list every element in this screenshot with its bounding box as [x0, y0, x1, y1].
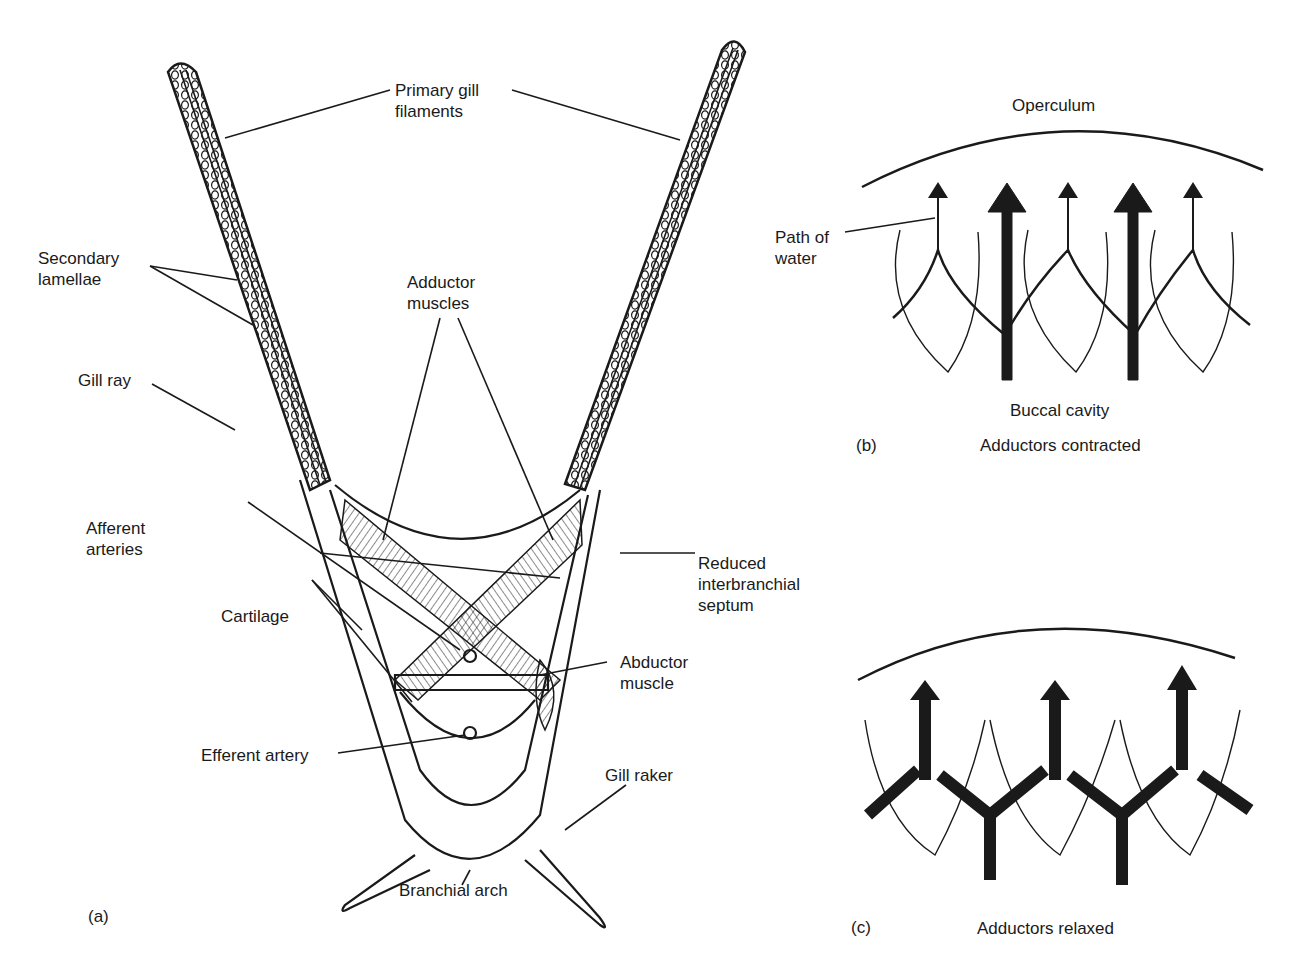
- label-secondary-lamellae: Secondary lamellae: [38, 248, 119, 290]
- panel-b-letter: (b): [856, 435, 877, 456]
- label-buccal-cavity: Buccal cavity: [1010, 400, 1109, 421]
- label-efferent-artery: Efferent artery: [201, 745, 308, 766]
- label-gill-ray: Gill ray: [78, 370, 131, 391]
- panel-b-drawing: [845, 131, 1263, 380]
- label-adductor-muscles: Adductor muscles: [407, 272, 475, 314]
- label-operculum: Operculum: [1012, 95, 1095, 116]
- label-primary-gill-filaments: Primary gill filaments: [395, 80, 479, 122]
- label-reduced-interbranchial-septum: Reduced interbranchial septum: [698, 553, 800, 616]
- label-afferent-arteries: Afferent arteries: [86, 518, 145, 560]
- label-cartilage: Cartilage: [221, 606, 289, 627]
- label-branchial-arch: Branchial arch: [399, 880, 508, 901]
- panel-c-drawing: [858, 629, 1250, 885]
- label-abductor-muscle: Abductor muscle: [620, 652, 688, 694]
- gill-diagram-drawing: [0, 0, 1301, 965]
- gill-arch-illustration: [168, 41, 745, 927]
- panel-c-letter: (c): [851, 917, 871, 938]
- panel-b-caption: Adductors contracted: [980, 435, 1141, 456]
- label-gill-raker: Gill raker: [605, 765, 673, 786]
- panel-c-caption: Adductors relaxed: [977, 918, 1114, 939]
- panel-a-letter: (a): [88, 906, 109, 927]
- label-path-of-water: Path of water: [775, 227, 829, 269]
